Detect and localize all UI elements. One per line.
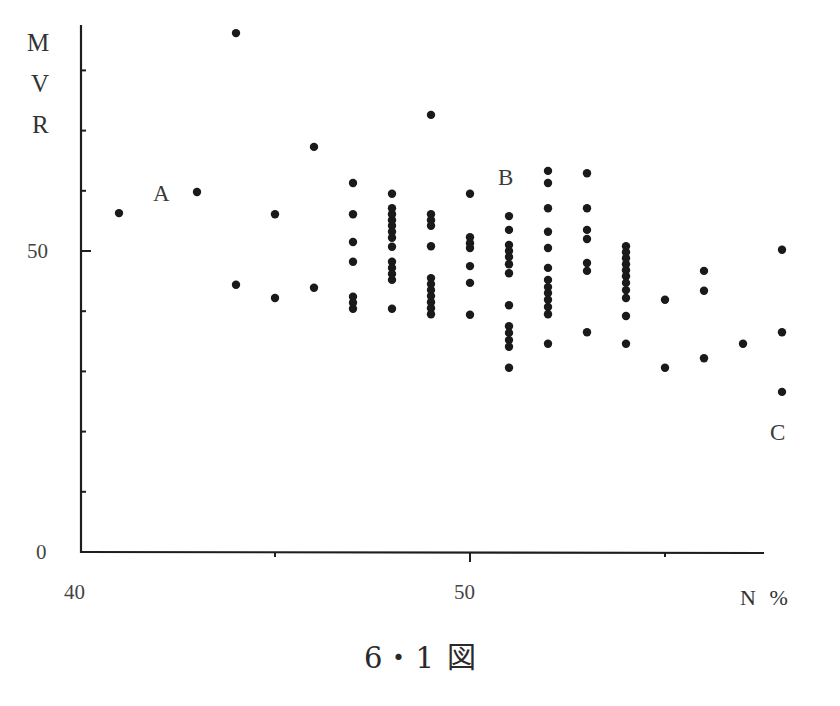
- data-point: [466, 311, 474, 319]
- data-point: [544, 179, 552, 187]
- data-point: [427, 242, 435, 250]
- data-point: [622, 294, 630, 302]
- y-axis-label-letter-v: V: [31, 71, 49, 96]
- data-point: [739, 340, 747, 348]
- data-point: [583, 226, 591, 234]
- data-point: [583, 204, 591, 212]
- data-point: [388, 234, 396, 242]
- annotation-b: B: [498, 166, 513, 189]
- data-point: [388, 276, 396, 284]
- data-point: [427, 310, 435, 318]
- data-point: [661, 364, 669, 372]
- data-point: [115, 209, 123, 217]
- x-axis: [80, 552, 764, 553]
- data-point: [271, 210, 279, 218]
- data-point: [544, 296, 552, 304]
- data-point: [310, 284, 318, 292]
- data-point: [583, 169, 591, 177]
- data-point: [583, 328, 591, 336]
- data-point: [388, 305, 396, 313]
- data-point: [544, 303, 552, 311]
- data-point: [544, 167, 552, 175]
- y-axis-label-letter-m: M: [27, 30, 49, 55]
- data-point: [544, 264, 552, 272]
- chart-axes: [80, 25, 764, 562]
- data-point: [427, 222, 435, 230]
- data-point: [583, 267, 591, 275]
- data-point: [505, 260, 513, 268]
- data-point: [271, 294, 279, 302]
- y-axis-ticks: [81, 70, 91, 491]
- data-point: [505, 226, 513, 234]
- data-point: [544, 340, 552, 348]
- scatter-chart: [0, 0, 840, 706]
- data-point: [232, 29, 240, 37]
- data-point: [466, 279, 474, 287]
- data-point: [700, 267, 708, 275]
- data-point: [544, 244, 552, 252]
- data-point: [505, 212, 513, 220]
- y-tick-label-50: 50: [27, 241, 48, 262]
- data-point: [622, 286, 630, 294]
- data-point: [622, 312, 630, 320]
- data-point: [349, 258, 357, 266]
- x-tick-label-40: 40: [64, 582, 85, 603]
- data-point: [544, 310, 552, 318]
- data-point: [349, 210, 357, 218]
- data-point: [622, 340, 630, 348]
- x-tick-label-50: 50: [454, 582, 475, 603]
- data-point: [466, 244, 474, 252]
- data-point: [310, 143, 318, 151]
- data-point: [388, 190, 396, 198]
- data-point: [505, 269, 513, 277]
- data-point: [232, 281, 240, 289]
- data-point: [505, 329, 513, 337]
- data-point: [193, 188, 201, 196]
- data-point: [778, 246, 786, 254]
- data-point: [505, 301, 513, 309]
- data-point: [505, 253, 513, 261]
- data-point: [349, 179, 357, 187]
- data-point: [466, 190, 474, 198]
- data-point: [544, 276, 552, 284]
- data-point: [778, 328, 786, 336]
- data-point: [700, 354, 708, 362]
- data-points: [115, 29, 786, 396]
- y-tick-label-0: 0: [36, 542, 47, 563]
- figure-caption: 6・1 図: [364, 644, 478, 673]
- data-point: [466, 262, 474, 270]
- data-point: [505, 364, 513, 372]
- y-axis-label-letter-r: R: [32, 112, 49, 137]
- data-point: [349, 238, 357, 246]
- data-point: [349, 305, 357, 313]
- data-point: [700, 287, 708, 295]
- data-point: [583, 259, 591, 267]
- data-point: [778, 388, 786, 396]
- data-point: [661, 296, 669, 304]
- data-point: [544, 204, 552, 212]
- annotation-c: C: [770, 421, 785, 444]
- data-point: [388, 243, 396, 251]
- x-axis-label: N %: [740, 587, 788, 609]
- data-point: [505, 343, 513, 351]
- data-point: [427, 111, 435, 119]
- data-point: [583, 235, 591, 243]
- data-point: [544, 228, 552, 236]
- annotation-a: A: [153, 182, 170, 205]
- data-point: [622, 279, 630, 287]
